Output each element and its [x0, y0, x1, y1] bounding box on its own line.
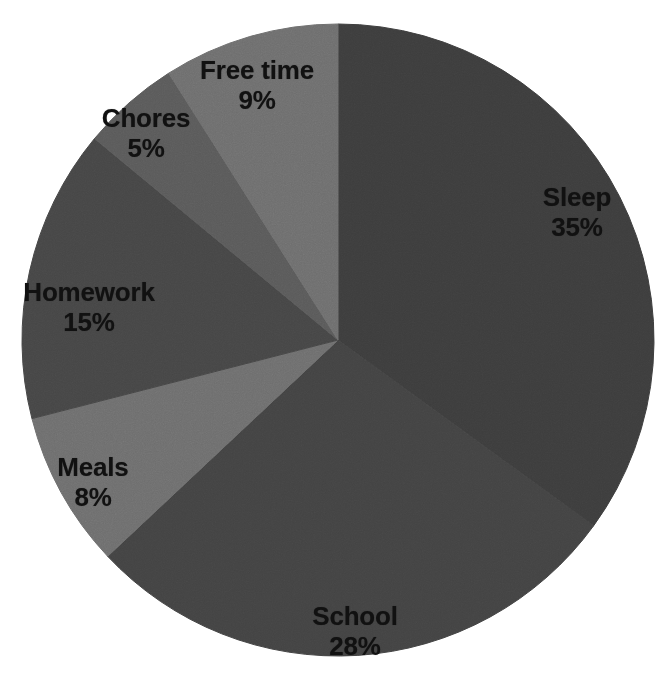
pie-chart: Sleep35%School28%Meals8%Homework15%Chore…: [0, 0, 656, 686]
pie-slice-value-school: 28%: [312, 632, 397, 662]
pie-slice-label-homework: Homework15%: [23, 278, 154, 337]
pie-slice-label-meals: Meals8%: [57, 453, 128, 512]
pie-slice-label-chores: Chores5%: [102, 104, 190, 163]
pie-slice-name-meals: Meals: [57, 453, 128, 483]
pie-slice-label-sleep: Sleep35%: [543, 183, 611, 242]
pie-slice-name-sleep: Sleep: [543, 183, 611, 213]
pie-slice-value-sleep: 35%: [543, 213, 611, 243]
pie-slice-name-school: School: [312, 602, 397, 632]
pie-slice-label-school: School28%: [312, 602, 397, 661]
pie-slice-value-free-time: 9%: [200, 86, 314, 116]
pie-slice-value-meals: 8%: [57, 483, 128, 513]
pie-slice-value-chores: 5%: [102, 134, 190, 164]
pie-slice-name-free-time: Free time: [200, 56, 314, 86]
pie-slice-label-free-time: Free time9%: [200, 56, 314, 115]
pie-slice-name-chores: Chores: [102, 104, 190, 134]
pie-chart-canvas: [0, 0, 656, 686]
pie-slice-value-homework: 15%: [23, 308, 154, 338]
pie-slice-name-homework: Homework: [23, 278, 154, 308]
